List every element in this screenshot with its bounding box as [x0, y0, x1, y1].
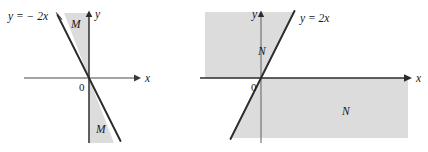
- right-line-equation-label: y = 2x: [299, 12, 330, 25]
- left-region-label-lower: M: [95, 123, 107, 135]
- right-region-label-upper: N: [257, 45, 267, 57]
- right-axis-x-label: x: [415, 72, 422, 84]
- left-line-equation-label: y = − 2x: [7, 10, 49, 23]
- right-axis-y-label: y: [251, 8, 258, 21]
- shaded-region-N-upper-left: [205, 12, 294, 78]
- left-origin-label: 0: [79, 81, 85, 93]
- figure-root: x y 0 y = − 2x M M: [0, 0, 428, 152]
- left-diagram-panel: x y 0 y = − 2x M M: [0, 0, 200, 152]
- left-axis-x-label: x: [144, 72, 151, 84]
- right-diagram-svg: x y 0 y = 2x N N: [200, 0, 428, 152]
- left-axis-y-label: y: [94, 8, 101, 21]
- right-origin-label: 0: [251, 81, 257, 93]
- left-diagram-svg: x y 0 y = − 2x M M: [0, 0, 200, 152]
- right-diagram-panel: x y 0 y = 2x N N: [200, 0, 428, 152]
- left-region-label-upper: M: [70, 18, 82, 30]
- right-region-label-lower: N: [341, 105, 351, 117]
- right-shaded-regions: [205, 12, 408, 138]
